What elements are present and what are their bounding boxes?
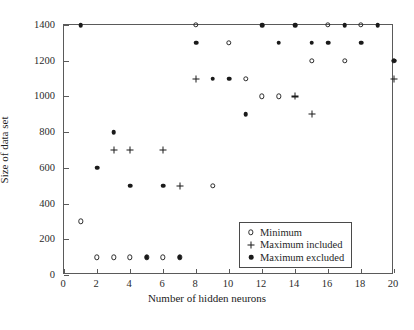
open-circle-marker: [276, 94, 281, 99]
x-tick-label: 4: [126, 278, 131, 289]
x-tick-label: 14: [289, 278, 300, 289]
open-circle-marker: [127, 254, 132, 259]
open-circle-marker: [259, 94, 264, 99]
filled-dot-marker: [144, 255, 149, 260]
filled-dot-marker: [95, 166, 100, 171]
filled-dot-marker: [128, 183, 133, 188]
y-axis-title: Size of data set: [0, 117, 10, 184]
y-tick-label: 1400: [15, 19, 55, 30]
filled-dot-marker: [260, 23, 265, 28]
plus-marker: [127, 147, 134, 154]
filled-dot-marker: [293, 23, 298, 28]
filled-dot-marker: [276, 41, 281, 46]
y-tick-label: 400: [15, 197, 55, 208]
y-tick-label: 1000: [15, 90, 55, 101]
open-circle-marker: [358, 22, 363, 27]
open-circle-marker: [111, 254, 116, 259]
filled-dot-marker: [359, 41, 364, 46]
y-tick-label: 600: [15, 161, 55, 172]
y-tick-label: 200: [15, 233, 55, 244]
filled-dot-marker: [326, 41, 331, 46]
plus-marker: [248, 241, 255, 248]
y-tick-label: 800: [15, 126, 55, 137]
plus-marker: [292, 93, 299, 100]
plus-marker: [391, 75, 398, 82]
legend-item: Maximum included: [244, 239, 344, 252]
x-tick-label: 12: [256, 278, 267, 289]
filled-dot-marker: [177, 255, 182, 260]
x-axis-title: Number of hidden neurons: [0, 292, 414, 304]
open-circle-marker: [325, 22, 330, 27]
open-circle-marker: [309, 58, 314, 63]
filled-dot-marker: [78, 23, 83, 28]
x-tick-label: 20: [388, 278, 399, 289]
plus-marker: [176, 182, 183, 189]
filled-dot-marker: [210, 76, 215, 81]
legend-label: Minimum: [258, 227, 302, 238]
x-tick-label: 8: [192, 278, 197, 289]
legend-label: Maximum included: [258, 239, 343, 250]
open-circle-marker: [78, 219, 83, 224]
x-tick-label: 0: [60, 278, 65, 289]
filled-dot-marker: [161, 183, 166, 188]
open-circle-marker: [94, 254, 99, 259]
filled-dot-marker: [227, 76, 232, 81]
open-circle-marker: [248, 230, 253, 235]
x-tick-label: 18: [355, 278, 366, 289]
x-tick-label: 2: [93, 278, 98, 289]
legend-item: Minimum: [244, 226, 344, 239]
filled-dot-marker: [375, 23, 380, 28]
open-circle-marker: [243, 76, 248, 81]
scatter-plot-figure: Size of data set 02468101214161820 02004…: [0, 0, 414, 330]
filled-dot-marker: [243, 112, 248, 117]
plus-marker: [193, 75, 200, 82]
filled-dot-marker: [309, 41, 314, 46]
legend-item: Maximum excluded: [244, 251, 344, 264]
open-circle-marker: [160, 254, 165, 259]
plus-marker: [160, 147, 167, 154]
open-circle-marker: [210, 183, 215, 188]
legend-symbol: [244, 251, 258, 264]
filled-dot-marker: [194, 41, 199, 46]
x-tick-label: 6: [159, 278, 164, 289]
y-tick-label: 1200: [15, 54, 55, 65]
open-circle-marker: [226, 40, 231, 45]
legend: MinimumMaximum includedMaximum excluded: [239, 222, 352, 268]
legend-label: Maximum excluded: [258, 252, 344, 263]
filled-dot-marker: [392, 58, 397, 63]
open-circle-marker: [342, 58, 347, 63]
filled-dot-marker: [111, 130, 116, 135]
y-tick-label: 0: [15, 269, 55, 280]
x-tick: [394, 269, 395, 274]
legend-symbol: [244, 239, 258, 252]
x-tick-label: 16: [322, 278, 333, 289]
x-tick-label: 10: [223, 278, 234, 289]
plus-marker: [308, 111, 315, 118]
filled-dot-marker: [249, 255, 254, 260]
open-circle-marker: [193, 22, 198, 27]
y-tick: [64, 275, 69, 276]
legend-symbol: [244, 226, 258, 239]
filled-dot-marker: [342, 23, 347, 28]
plus-marker: [110, 147, 117, 154]
